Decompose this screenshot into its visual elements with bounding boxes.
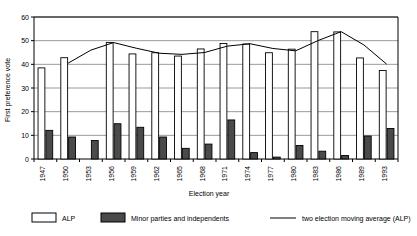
- x-tick-label-1962: 1962: [153, 166, 160, 182]
- y-tick-label: 10: [21, 132, 29, 139]
- bar-minor-1974: [251, 153, 258, 159]
- legend-label-alp: ALP: [62, 215, 76, 222]
- x-tick-label-1971: 1971: [221, 166, 228, 182]
- y-axis-title: First preference vote: [4, 58, 12, 122]
- x-tick-label-1977: 1977: [267, 166, 274, 182]
- bar-minor-1965: [182, 148, 189, 159]
- bar-minor-1953: [91, 141, 98, 159]
- bar-minor-1993: [387, 128, 394, 159]
- bar-alp-1959: [129, 54, 136, 159]
- bar-alp-1974: [243, 44, 250, 159]
- x-tick-label-1974: 1974: [244, 166, 251, 182]
- legend-label-minor-parties: Minor parties and independents: [131, 215, 230, 223]
- bar-minor-1977: [273, 157, 280, 159]
- bar-minor-1947: [46, 130, 53, 159]
- bar-alp-1993: [379, 70, 386, 159]
- bar-alp-1977: [266, 53, 273, 159]
- y-tick-label: 30: [21, 85, 29, 92]
- x-tick-label-1993: 1993: [381, 166, 388, 182]
- bar-minor-1980: [296, 146, 303, 159]
- bar-alp-1950: [61, 58, 68, 159]
- bar-alp-1968: [197, 49, 204, 159]
- bar-minor-1968: [205, 144, 212, 159]
- y-tick-label: 40: [21, 61, 29, 68]
- bar-minor-1986: [342, 155, 349, 159]
- bar-minor-1956: [114, 124, 121, 159]
- legend-swatch-minor-parties: [101, 213, 125, 222]
- x-tick-label-1983: 1983: [312, 166, 319, 182]
- y-tick-label: 0: [25, 156, 29, 163]
- bar-minor-1962: [160, 137, 167, 159]
- bar-minor-1950: [69, 137, 76, 159]
- y-tick-label: 50: [21, 37, 29, 44]
- bar-minor-1983: [319, 151, 326, 159]
- bar-alp-1971: [220, 44, 227, 159]
- bar-minor-1959: [137, 127, 144, 159]
- first-preference-vote-chart: 0102030405060 19471950195319561959196219…: [0, 0, 417, 236]
- x-tick-label-1947: 1947: [39, 166, 46, 182]
- x-axis-title: Election year: [189, 190, 230, 198]
- bar-alp-1989: [357, 58, 364, 159]
- bar-alp-1983: [311, 32, 318, 159]
- bar-alp-1962: [152, 53, 159, 159]
- x-tick-label-1968: 1968: [199, 166, 206, 182]
- y-tick-label: 20: [21, 108, 29, 115]
- bar-alp-1965: [175, 56, 182, 159]
- x-tick-label-1953: 1953: [85, 166, 92, 182]
- bar-minor-1971: [228, 120, 235, 159]
- bar-alp-1947: [38, 68, 45, 159]
- x-tick-label-1980: 1980: [290, 166, 297, 182]
- x-tick-label-1956: 1956: [108, 166, 115, 182]
- legend-swatch-alp: [32, 213, 56, 222]
- x-tick-label-1959: 1959: [130, 166, 137, 182]
- bar-alp-1986: [334, 32, 341, 159]
- x-tick-label-1986: 1986: [335, 166, 342, 182]
- bar-minor-1989: [364, 136, 371, 159]
- bar-alp-1956: [106, 43, 113, 159]
- legend-label-moving-average: two election moving average (ALP): [302, 215, 411, 223]
- y-tick-label: 60: [21, 14, 29, 21]
- bar-alp-1980: [288, 49, 295, 159]
- x-tick-label-1950: 1950: [62, 166, 69, 182]
- x-tick-label-1965: 1965: [176, 166, 183, 182]
- x-tick-label-1989: 1989: [358, 166, 365, 182]
